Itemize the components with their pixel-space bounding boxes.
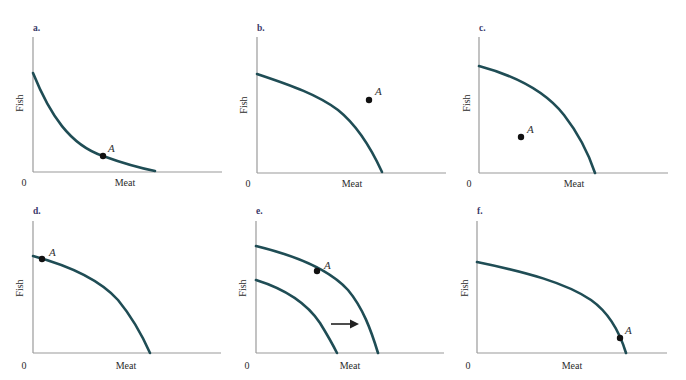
chart-a: a. A Fish Meat 0 — [0, 0, 228, 190]
point-a-label: A — [48, 246, 56, 258]
x-axis-label: Meat — [340, 360, 361, 371]
y-axis-label: Fish — [14, 279, 25, 296]
shift-arrow-icon — [350, 320, 359, 329]
panel-d: d. A Fish Meat 0 — [0, 190, 228, 380]
panel-label-b: b. — [257, 23, 265, 33]
chart-b: b. A Fish Meat 0 — [228, 0, 456, 190]
y-axis-label: Fish — [237, 279, 248, 296]
point-a — [314, 268, 320, 274]
ppf-curve — [33, 73, 155, 171]
panel-a: a. A Fish Meat 0 — [0, 0, 228, 190]
x-axis-label: Meat — [115, 177, 136, 188]
panel-f: f. A Fish Meat 0 — [456, 190, 686, 380]
x-axis-label: Meat — [562, 360, 583, 371]
origin-label: 0 — [246, 178, 251, 189]
chart-c: c. A Fish Meat 0 — [456, 0, 686, 190]
point-a-label: A — [374, 85, 382, 97]
origin-label: 0 — [22, 177, 27, 188]
point-a-label: A — [624, 324, 632, 336]
origin-label: 0 — [466, 360, 471, 371]
chart-f: f. A Fish Meat 0 — [456, 190, 686, 380]
y-axis-label: Fish — [238, 96, 249, 113]
origin-label: 0 — [467, 178, 472, 189]
point-a-label: A — [107, 142, 115, 154]
panel-label-c: c. — [479, 23, 486, 33]
panel-e: e. A Fish Meat 0 — [228, 190, 456, 380]
panel-c: c. A Fish Meat 0 — [456, 0, 686, 190]
point-a — [617, 335, 623, 341]
panel-label-d: d. — [33, 206, 41, 216]
chart-d: d. A Fish Meat 0 — [0, 190, 228, 380]
x-axis-label: Meat — [342, 178, 363, 189]
panel-label-e: e. — [256, 206, 263, 216]
point-a — [39, 256, 45, 262]
panel-b: b. A Fish Meat 0 — [228, 0, 456, 190]
origin-label: 0 — [245, 360, 250, 371]
x-axis-label: Meat — [564, 178, 585, 189]
ppf-curve — [33, 256, 150, 353]
point-a-label: A — [323, 259, 331, 271]
original-ppf-curve — [256, 280, 337, 353]
ppf-curve — [257, 74, 382, 172]
x-axis-label: Meat — [116, 360, 137, 371]
ppf-curve — [479, 66, 595, 173]
chart-e: e. A Fish Meat 0 — [228, 190, 456, 380]
origin-label: 0 — [22, 360, 27, 371]
panel-label-a: a. — [33, 23, 40, 33]
point-a — [518, 134, 524, 140]
point-a — [366, 97, 372, 103]
ppf-curve — [477, 262, 626, 353]
point-a — [100, 153, 106, 159]
y-axis-label: Fish — [459, 279, 470, 296]
panel-label-f: f. — [477, 206, 483, 216]
y-axis-label: Fish — [14, 94, 25, 111]
shifted-ppf-curve — [256, 246, 378, 353]
y-axis-label: Fish — [461, 94, 472, 111]
point-a-label: A — [526, 123, 534, 135]
